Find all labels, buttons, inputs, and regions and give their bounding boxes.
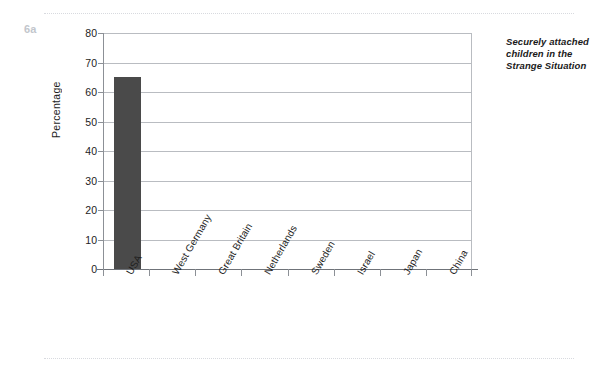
y-tick-label-50: 50	[57, 116, 97, 128]
y-tick-30	[98, 181, 104, 182]
y-tick-70	[98, 63, 104, 64]
caption-line-3: Strange Situation	[506, 60, 590, 72]
y-tick-label-20: 20	[57, 204, 97, 216]
y-tick-label-0: 0	[57, 263, 97, 275]
bar-usa	[114, 77, 141, 269]
y-tick-60	[98, 92, 104, 93]
y-tick-label-30: 30	[57, 175, 97, 187]
y-tick-label-70: 70	[57, 57, 97, 69]
x-axis-category-labels: USAWest GermanyGreat BritainNetherlandsS…	[103, 271, 472, 351]
y-tick-10	[98, 240, 104, 241]
y-tick-20	[98, 210, 104, 211]
y-tick-40	[98, 151, 104, 152]
figure-page: 6a Percentage 01020304050607080 USAWest …	[0, 0, 591, 367]
y-tick-50	[98, 122, 104, 123]
y-tick-80	[98, 33, 104, 34]
y-tick-label-10: 10	[57, 234, 97, 246]
caption-line-2: children in the	[506, 48, 590, 60]
y-tick-label-40: 40	[57, 145, 97, 157]
figure-caption: Securely attachedchildren in theStrange …	[506, 36, 590, 72]
y-axis-tick-labels: 01020304050607080	[55, 33, 97, 269]
caption-line-1: Securely attached	[506, 36, 590, 48]
y-tick-label-60: 60	[57, 86, 97, 98]
y-tick-label-80: 80	[57, 27, 97, 39]
bar-chart: Percentage 01020304050607080 USAWest Ger…	[0, 0, 591, 367]
